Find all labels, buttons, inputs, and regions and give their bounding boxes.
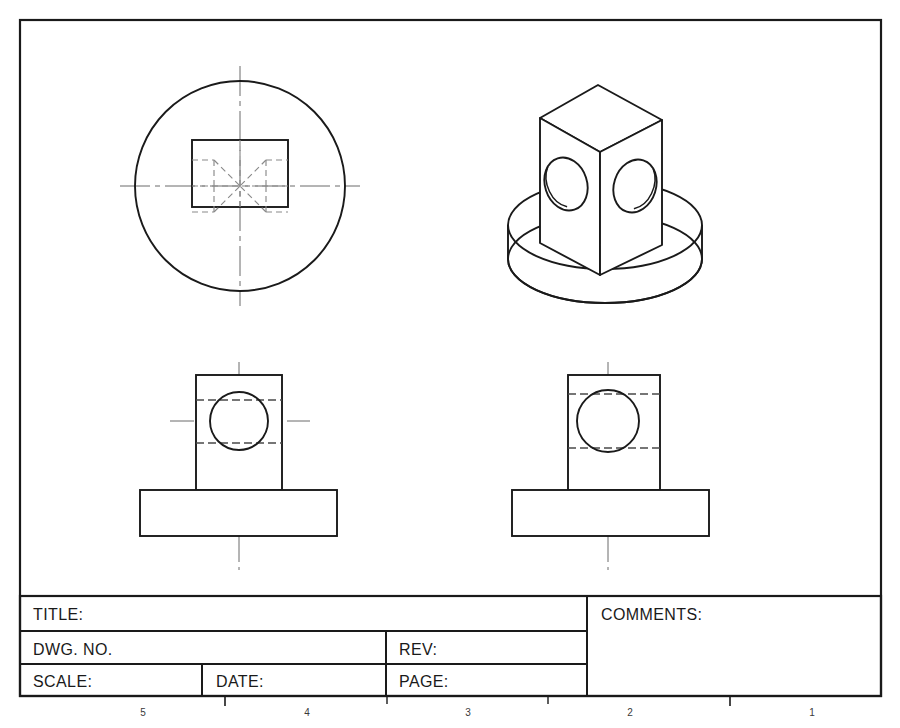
comments-field-label[interactable]: COMMENTS: <box>601 606 702 623</box>
dwg-no-field-label[interactable]: DWG. NO. <box>33 641 113 658</box>
front-view-base <box>140 490 337 536</box>
rev-field-label[interactable]: REV: <box>399 641 437 658</box>
sheet-background <box>0 0 900 728</box>
zone-label-2: 2 <box>627 707 633 718</box>
right-view-base <box>512 490 709 536</box>
zone-label-3: 3 <box>465 707 471 718</box>
engineering-drawing-canvas: TITLE: DWG. NO. REV: SCALE: DATE: PAGE: … <box>0 0 900 728</box>
right-view-block <box>568 375 660 490</box>
scale-field-label[interactable]: SCALE: <box>33 673 92 690</box>
zone-label-4: 4 <box>304 707 310 718</box>
drawing-sheet: TITLE: DWG. NO. REV: SCALE: DATE: PAGE: … <box>0 0 900 728</box>
title-field-label[interactable]: TITLE: <box>33 606 83 623</box>
zone-label-5: 5 <box>140 707 146 718</box>
date-field-label[interactable]: DATE: <box>216 673 264 690</box>
zone-label-1: 1 <box>809 707 815 718</box>
page-field-label[interactable]: PAGE: <box>399 673 449 690</box>
